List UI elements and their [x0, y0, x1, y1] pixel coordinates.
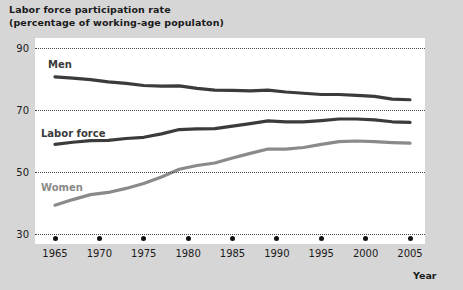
series-label-men: Men: [48, 59, 72, 70]
x-tick-label-1970: 1970: [79, 248, 119, 259]
y-tick-50: 50: [3, 167, 29, 178]
line-men: [55, 77, 410, 100]
x-tick-label-2005: 2005: [390, 248, 430, 259]
x-tick-dot-1980: [186, 236, 191, 241]
chart-title-line-2: (percentage of working-age populaton): [9, 16, 309, 29]
x-tick-label-1965: 1965: [35, 248, 75, 259]
gridline-50: [35, 172, 425, 174]
x-tick-label-1985: 1985: [213, 248, 253, 259]
x-tick-dot-1965: [53, 236, 58, 241]
chart-title: Labor force participation rate (percenta…: [9, 3, 309, 29]
x-tick-dot-1995: [319, 236, 324, 241]
x-tick-label-1980: 1980: [168, 248, 208, 259]
x-tick-label-1995: 1995: [301, 248, 341, 259]
plot-area: [35, 38, 425, 244]
series-label-labor-force: Labor force: [41, 128, 105, 139]
x-tick-dot-1985: [230, 236, 235, 241]
chart-figure: Labor force participation rate (percenta…: [0, 0, 463, 290]
y-tick-30: 30: [3, 229, 29, 240]
series-label-women: Women: [41, 182, 83, 193]
x-tick-dot-1970: [97, 236, 102, 241]
x-tick-label-1990: 1990: [257, 248, 297, 259]
x-tick-label-2000: 2000: [346, 248, 386, 259]
y-tick-70: 70: [3, 105, 29, 116]
series-lines: [35, 38, 425, 244]
gridline-70: [35, 110, 425, 112]
x-tick-label-1975: 1975: [124, 248, 164, 259]
chart-title-line-1: Labor force participation rate: [9, 3, 309, 16]
x-tick-dot-2005: [408, 236, 413, 241]
gridline-90: [35, 48, 425, 50]
x-axis-label: Year: [413, 270, 437, 281]
y-tick-90: 90: [3, 43, 29, 54]
